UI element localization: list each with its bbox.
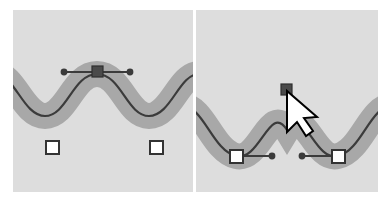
right-anchor-square[interactable] bbox=[150, 141, 163, 154]
right-control-handle-dot[interactable] bbox=[127, 69, 134, 76]
smooth-node-marker[interactable] bbox=[92, 66, 103, 77]
left-anchor-handle-dot[interactable] bbox=[269, 153, 276, 160]
left-anchor-square[interactable] bbox=[230, 150, 243, 163]
panel-cusp-node bbox=[196, 10, 378, 192]
stroke-band-smooth bbox=[13, 74, 193, 116]
bezier-comparison-figure bbox=[0, 0, 390, 207]
right-anchor-handle-dot[interactable] bbox=[299, 153, 306, 160]
cusp-node-illustration bbox=[196, 10, 378, 192]
left-control-handle-dot[interactable] bbox=[61, 69, 68, 76]
right-anchor-square[interactable] bbox=[332, 150, 345, 163]
smooth-node-illustration bbox=[13, 10, 193, 192]
left-anchor-square[interactable] bbox=[46, 141, 59, 154]
panel-smooth-node bbox=[13, 10, 193, 192]
